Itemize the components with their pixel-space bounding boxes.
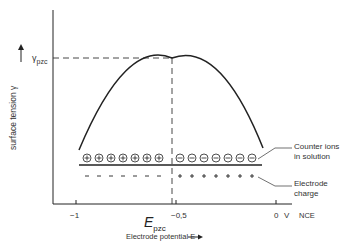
counter-ions-negative: [176, 154, 256, 162]
x-axis-label: Electrode potential E: [126, 233, 195, 241]
counter-ions-leader: [258, 148, 292, 159]
x-reference-label: NCE: [299, 212, 315, 220]
counter-ions-positive: [83, 154, 163, 162]
electrode-charges-positive: [178, 174, 254, 178]
x-tick-label-0: 0: [274, 212, 278, 220]
counter-ions-label-line2: in solution: [294, 153, 330, 161]
x-tick-label-minus05: −0,5: [171, 212, 187, 220]
electrode-charge-leader: [258, 177, 292, 186]
y-axis-label: surface tension γ: [8, 86, 18, 150]
epzc-label: Epzc: [144, 215, 166, 233]
surface-tension-curve: [79, 55, 263, 150]
x-unit-label: V: [284, 212, 289, 220]
gamma-pzc-label: γpzc: [32, 54, 47, 65]
x-tick-label-minus1: −1: [70, 212, 79, 220]
electrode-charge-label-line2: charge: [294, 190, 318, 198]
counter-ions-label-line1: Counter ions: [294, 143, 339, 151]
electrode-charge-label-line1: Electrode: [294, 180, 328, 188]
